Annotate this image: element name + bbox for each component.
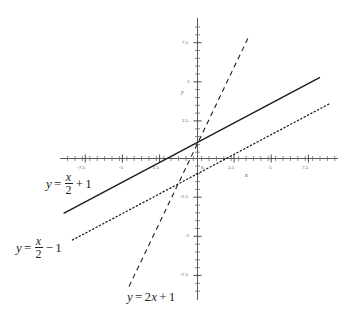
- x-tick-label: -5: [119, 165, 123, 170]
- equation-constant: 1: [55, 240, 62, 255]
- line-y-equals-x-over-2-minus-1: [73, 104, 330, 240]
- x-tick-label: -2.5: [151, 165, 159, 170]
- equation-fraction: x2: [65, 171, 73, 197]
- fraction-denominator: 2: [35, 247, 43, 261]
- equation-constant: 1: [169, 289, 176, 304]
- y-tick-label: -2.5: [180, 194, 188, 199]
- y-tick-label: -7.5: [180, 272, 188, 277]
- equation-label-dashed-line: y=2x+1: [127, 290, 175, 303]
- equation-operator: −: [44, 240, 56, 255]
- y-axis-label: y: [181, 89, 184, 95]
- equation-equals: =: [52, 176, 64, 191]
- line-y-equals-x-over-2-plus-1: [64, 77, 320, 213]
- equation-label-dotted-line: y=x2−1: [16, 236, 62, 262]
- y-tick-label: 7.5: [182, 40, 188, 45]
- x-tick-label: 2.5: [228, 165, 234, 170]
- fraction-denominator: 2: [65, 183, 73, 197]
- y-tick-label: 2.5: [182, 118, 188, 123]
- x-tick-label: -7.5: [77, 165, 85, 170]
- x-axis-label: x: [245, 172, 248, 178]
- equation-constant: 1: [85, 176, 92, 191]
- fraction-numerator: x: [35, 235, 43, 247]
- equation-fraction: x2: [35, 235, 43, 261]
- x-tick-label: 7.5: [302, 165, 308, 170]
- graph-figure: -7.5 -5 -2.5 0 2.5 5 7.5 7.5 5 2.5 -2.5 …: [0, 0, 355, 324]
- x-tick-label: 0: [201, 165, 204, 170]
- coordinate-plot: [0, 0, 355, 324]
- equation-operator: +: [74, 176, 86, 191]
- equation-operator: +: [157, 289, 169, 304]
- x-tick-label: 5: [269, 165, 272, 170]
- y-tick-label: 5: [187, 79, 190, 84]
- y-tick-label: -5: [185, 233, 189, 238]
- fraction-numerator: x: [65, 171, 73, 183]
- equation-label-solid-line: y=x2+1: [46, 172, 92, 198]
- equation-equals: =: [22, 240, 34, 255]
- equation-equals: =: [133, 289, 145, 304]
